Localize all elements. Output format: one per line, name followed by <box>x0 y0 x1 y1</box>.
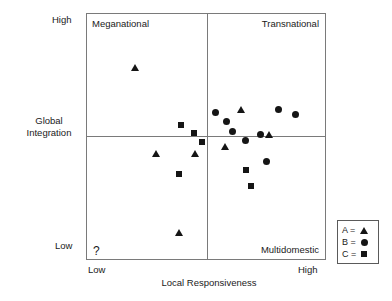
circle-icon <box>229 128 236 135</box>
circle-icon <box>361 239 368 246</box>
quadrant-divider-horizontal <box>87 136 325 137</box>
triangle-icon <box>265 131 273 138</box>
triangle-icon <box>175 229 183 236</box>
circle-icon <box>275 106 282 113</box>
triangle-icon <box>191 150 199 157</box>
quadrant-label-multidomestic: Multidomestic <box>261 244 319 255</box>
triangle-icon <box>237 106 245 113</box>
legend-label-a: A = <box>342 224 355 236</box>
chart-legend: A = B = C = <box>337 220 379 264</box>
x-axis-tick-low: Low <box>88 264 105 276</box>
circle-icon <box>242 137 249 144</box>
triangle-icon <box>221 143 229 150</box>
legend-label-c: C = <box>342 248 356 260</box>
circle-icon <box>263 158 270 165</box>
plot-area: Meganational Transnational Multidomestic… <box>86 13 326 260</box>
x-axis-tick-high: High <box>298 264 318 276</box>
quadrant-label-transnational: Transnational <box>262 18 319 29</box>
square-icon <box>248 183 254 189</box>
square-icon <box>199 139 205 145</box>
circle-icon <box>292 111 299 118</box>
square-icon <box>243 167 249 173</box>
legend-entry-b: B = <box>342 236 378 248</box>
legend-entry-a: A = <box>342 224 378 236</box>
circle-icon <box>257 131 264 138</box>
scatter-chart-figure: Global Integration High Low Low High Loc… <box>0 0 392 301</box>
x-axis-title: Local Responsiveness <box>139 277 279 289</box>
circle-icon <box>212 109 219 116</box>
circle-icon <box>223 118 230 125</box>
square-icon <box>191 130 197 136</box>
triangle-icon <box>360 227 368 234</box>
square-icon <box>361 251 367 257</box>
triangle-icon <box>131 64 139 71</box>
square-icon <box>178 122 184 128</box>
quadrant-label-meganational: Meganational <box>92 18 149 29</box>
legend-label-b: B = <box>342 236 356 248</box>
y-axis-tick-high: High <box>52 14 72 26</box>
quadrant-label-unknown: ? <box>93 246 100 257</box>
triangle-icon <box>152 150 160 157</box>
y-axis-title: Global Integration <box>18 115 80 139</box>
square-icon <box>176 171 182 177</box>
legend-entry-c: C = <box>342 248 378 260</box>
y-axis-tick-low: Low <box>55 240 72 252</box>
